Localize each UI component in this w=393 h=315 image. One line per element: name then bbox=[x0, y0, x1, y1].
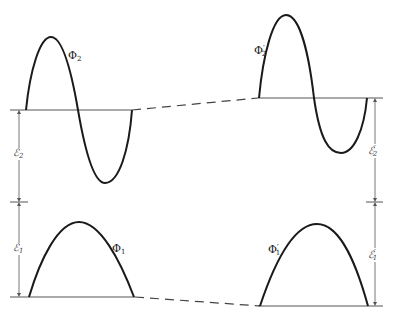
upper-dashed-connector bbox=[132, 98, 258, 110]
phi-symbol: Φ bbox=[112, 242, 121, 255]
subscript: 1 bbox=[373, 254, 377, 262]
right-phi2-prime-label: Φ′2 bbox=[254, 44, 266, 58]
subscript: 1 bbox=[276, 249, 280, 257]
right-phi2-prime-curve bbox=[259, 15, 367, 153]
right-e2-prime-label: ℰ′2 bbox=[368, 144, 377, 158]
left-phi2-label: Φ2 bbox=[68, 50, 82, 63]
right-phi1-prime-curve bbox=[260, 224, 368, 306]
subscript: 2 bbox=[77, 55, 81, 63]
subscript: 2 bbox=[19, 152, 23, 160]
right-e1-prime-label: ℰ′1 bbox=[368, 248, 377, 262]
left-phi1-curve bbox=[29, 222, 134, 297]
subscript: 2 bbox=[262, 50, 266, 58]
phi-symbol: Φ bbox=[68, 49, 77, 62]
subscript: 1 bbox=[19, 247, 23, 255]
diagram-canvas bbox=[0, 0, 393, 315]
subscript: 1 bbox=[121, 248, 125, 256]
left-e2-label: ℰ2 bbox=[13, 148, 23, 160]
lower-dashed-connector bbox=[135, 297, 260, 306]
right-phi1-prime-label: Φ′1 bbox=[268, 243, 280, 257]
left-phi1-label: Φ1 bbox=[112, 243, 126, 256]
left-e1-label: ℰ1 bbox=[13, 243, 23, 255]
subscript: 2 bbox=[373, 150, 377, 158]
